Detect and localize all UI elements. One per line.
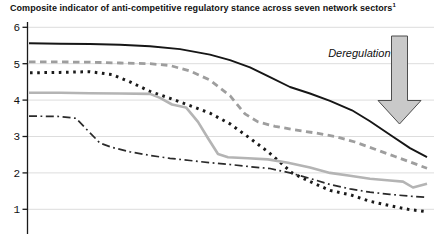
line-chart-canvas: Deregulation654321 (0, 0, 434, 234)
chart-figure: Composite indicator of anti-competitive … (0, 0, 434, 234)
y-tick-label-2: 2 (13, 168, 20, 180)
series-2-gray-dashed-line (29, 62, 427, 168)
y-tick-label-1: 1 (13, 204, 20, 216)
deregulation-label: Deregulation (328, 47, 390, 59)
y-tick-label-3: 3 (13, 131, 20, 143)
y-tick-label-5: 5 (13, 59, 20, 71)
y-tick-label-4: 4 (13, 95, 20, 107)
y-tick-label-6: 6 (13, 22, 20, 34)
